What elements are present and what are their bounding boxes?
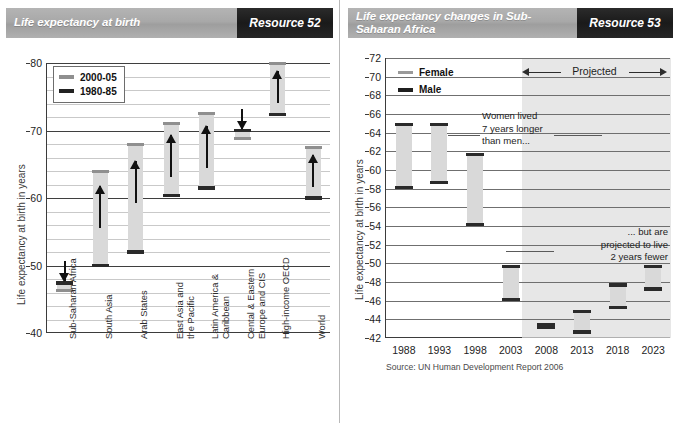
resource-52-panel: Life expectancy at birth Resource 52 Lif… — [0, 0, 339, 423]
resource-53-panel: Life expectancy changes in Sub-Saharan A… — [339, 0, 678, 423]
x-axis-label-6: High-income OECD — [281, 257, 292, 339]
legend-swatch-female — [398, 71, 413, 74]
change-arrow-up-7 — [308, 155, 319, 186]
gridline-72 — [47, 117, 330, 118]
cap-2000-05-7 — [305, 146, 322, 149]
arrow-head-1 — [95, 185, 105, 194]
cap-1980-85-3 — [163, 194, 180, 197]
right-chart-plot: Female Male 4244464850525456586062646668… — [385, 58, 670, 338]
legend-label-2000-05: 2000-05 — [80, 72, 117, 83]
right-banner-tag: Resource 53 — [577, 8, 673, 38]
y-tick-label-56: 56 — [369, 201, 386, 213]
cap-male-2013 — [573, 330, 591, 333]
change-arrow-up-4 — [201, 126, 212, 168]
arrow-head-3 — [166, 134, 176, 143]
arrow-head-5 — [237, 121, 247, 130]
y-tick-label-80: 80 — [30, 57, 47, 69]
cap-female-2013 — [573, 310, 591, 313]
bar-2023 — [645, 265, 661, 290]
y-tick-mark-52 — [365, 245, 369, 246]
y-tick-mark-50 — [26, 266, 30, 267]
left-chart-legend: 2000-05 1980-85 — [53, 66, 125, 103]
y-tick-label-40: 40 — [30, 327, 47, 339]
y-tick-mark-40 — [26, 333, 30, 334]
projected-arrow-right-icon — [660, 68, 667, 76]
left-banner: Life expectancy at birth Resource 52 — [6, 8, 333, 38]
y-tick-label-50: 50 — [30, 260, 47, 272]
gridline-60 — [47, 198, 330, 199]
gridline-80 — [47, 63, 330, 64]
y-tick-mark-58 — [365, 189, 369, 190]
legend-row-female: Female — [398, 64, 453, 81]
gridline-74 — [47, 104, 330, 105]
cap-2000-05-4 — [198, 112, 215, 115]
right-y-axis-title: Life expectancy at birth in years — [354, 159, 365, 300]
y-tick-label-70: 70 — [369, 71, 386, 83]
y-tick-mark-70 — [365, 77, 369, 78]
y-tick-label-68: 68 — [369, 89, 386, 101]
y-tick-label-66: 66 — [369, 108, 386, 120]
gridline-56 — [47, 225, 330, 226]
cap-2000-05-5 — [234, 137, 251, 140]
annotation-leader-1 — [448, 135, 480, 136]
legend-swatch-2000-05 — [59, 75, 74, 78]
cap-male-1988 — [395, 186, 413, 189]
x-axis-label-2: Arab States — [139, 290, 150, 339]
cap-female-1988 — [395, 123, 413, 126]
gridline-48 — [386, 282, 670, 283]
legend-swatch-1980-85 — [59, 89, 74, 92]
left-banner-tag: Resource 52 — [237, 8, 333, 38]
y-tick-label-44: 44 — [369, 313, 386, 325]
page-root: Life expectancy at birth Resource 52 Lif… — [0, 0, 678, 423]
y-tick-label-72: 72 — [369, 52, 386, 64]
cap-2000-05-2 — [127, 143, 144, 146]
right-banner: Life expectancy changes in Sub-Saharan A… — [348, 8, 673, 38]
y-tick-label-60: 60 — [30, 192, 47, 204]
right-chart-source: Source: UN Human Development Report 2006 — [386, 362, 563, 372]
legend-row-2000-05: 2000-05 — [59, 70, 117, 84]
bar-2003 — [503, 265, 519, 300]
y-tick-mark-62 — [365, 151, 369, 152]
y-tick-mark-68 — [365, 95, 369, 96]
arrow-head-4 — [201, 125, 211, 134]
y-tick-label-58: 58 — [369, 183, 386, 195]
gridline-62 — [47, 185, 330, 186]
x-axis-label-1988: 1988 — [392, 344, 415, 356]
y-tick-mark-46 — [365, 301, 369, 302]
y-tick-mark-80 — [26, 63, 30, 64]
gridline-66 — [47, 158, 330, 159]
gridline-60 — [386, 170, 670, 171]
y-tick-label-62: 62 — [369, 145, 386, 157]
y-tick-label-64: 64 — [369, 127, 386, 139]
x-axis-label-2003: 2003 — [499, 344, 522, 356]
y-tick-label-50: 50 — [369, 257, 386, 269]
x-axis-label-2013: 2013 — [570, 344, 593, 356]
y-tick-label-46: 46 — [369, 295, 386, 307]
gridline-64 — [47, 171, 330, 172]
arrow-head-2 — [130, 160, 140, 169]
gridline-68 — [47, 144, 330, 145]
y-tick-mark-66 — [365, 114, 369, 115]
gridline-72 — [386, 58, 670, 59]
cap-1980-85-6 — [269, 113, 286, 116]
projected-rule-right — [629, 72, 661, 73]
legend-label-male: Male — [419, 84, 441, 95]
legend-row-1980-85: 1980-85 — [59, 84, 117, 98]
y-tick-label-60: 60 — [369, 164, 386, 176]
gridline-52 — [47, 252, 330, 253]
annotation-leader-1b — [554, 135, 602, 136]
x-axis-label-2018: 2018 — [606, 344, 629, 356]
arrow-head-7 — [308, 154, 318, 163]
projected-label: Projected — [572, 65, 616, 77]
cap-1980-85-2 — [127, 250, 144, 253]
projected-band — [522, 58, 671, 338]
y-tick-label-48: 48 — [369, 276, 386, 288]
y-tick-mark-54 — [365, 226, 369, 227]
gridline-44 — [386, 319, 670, 320]
y-tick-mark-42 — [365, 338, 369, 339]
left-y-axis-title: Life expectancy at birth in years — [16, 164, 27, 305]
bar-1993 — [431, 123, 447, 184]
y-tick-mark-44 — [365, 319, 369, 320]
gridline-58 — [47, 212, 330, 213]
cap-male-2023 — [644, 287, 662, 290]
